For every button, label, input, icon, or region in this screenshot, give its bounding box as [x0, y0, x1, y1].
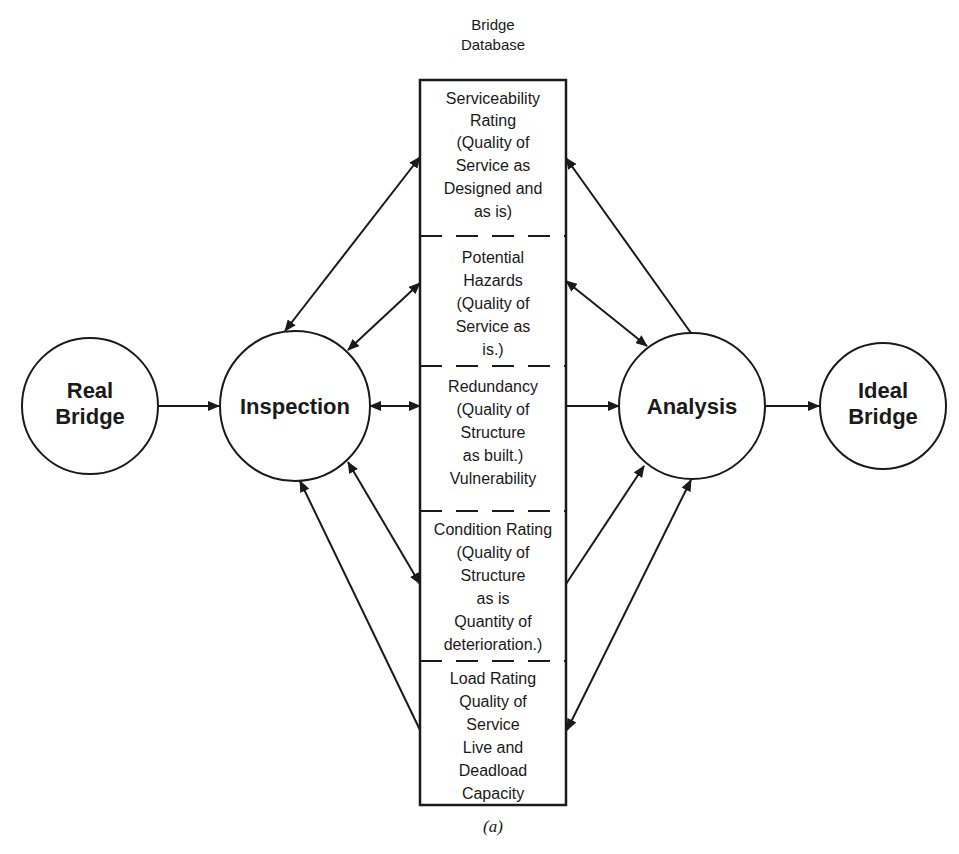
section-line: (Quality of: [457, 401, 530, 418]
edge-load-rating-analysis: [567, 480, 691, 730]
section-line: deterioration.): [444, 636, 543, 653]
section-line: (Quality of: [457, 295, 530, 312]
node-inspection: Inspection: [220, 331, 370, 481]
node-label: Analysis: [647, 394, 738, 419]
database-header-line: Database: [461, 36, 525, 53]
node-label: Bridge: [55, 404, 125, 429]
figure-caption: (a): [483, 817, 503, 836]
node-analysis: Analysis: [619, 333, 765, 479]
section-redundancy: Redundancy (Quality of Structure as buil…: [448, 378, 538, 487]
section-line: is.): [482, 341, 503, 358]
bridge-database-box: Serviceability Rating (Quality of Servic…: [420, 80, 566, 805]
section-line: as built.): [463, 447, 523, 464]
node-label: Real: [67, 378, 113, 403]
section-line: (Quality of: [457, 544, 530, 561]
section-line: Capacity: [462, 785, 524, 802]
section-line: Live and: [463, 739, 524, 756]
database-header-line: Bridge: [471, 16, 514, 33]
section-line: Deadload: [459, 762, 528, 779]
section-line: as is): [474, 203, 512, 220]
edge-inspection-potential-hazards: [348, 283, 420, 350]
section-line: Rating: [470, 112, 516, 129]
section-line: Redundancy: [448, 378, 538, 395]
node-label: Ideal: [858, 378, 908, 403]
node-label: Bridge: [848, 404, 918, 429]
section-line: Condition Rating: [434, 521, 552, 538]
bridge-management-diagram: Bridge Database Serviceability Rating (Q…: [0, 0, 959, 854]
edge-analysis-to-serviceability: [566, 158, 691, 333]
section-line: Serviceability: [446, 90, 540, 107]
section-line: Quality of: [459, 693, 527, 710]
section-line: as is: [477, 590, 510, 607]
section-line: (Quality of: [457, 134, 530, 151]
section-line: Service as: [456, 318, 531, 335]
node-real-bridge: Real Bridge: [22, 338, 158, 474]
section-line: Quantity of: [454, 613, 532, 630]
section-line: Load Rating: [450, 670, 536, 687]
node-ideal-bridge: Ideal Bridge: [820, 343, 946, 469]
edge-condition-rating-to-analysis: [566, 466, 644, 584]
node-label: Inspection: [240, 394, 350, 419]
section-line: Vulnerability: [450, 470, 537, 487]
section-line: Potential: [462, 249, 524, 266]
section-line: Service as: [456, 157, 531, 174]
edge-inspection-condition-rating: [348, 462, 420, 584]
edge-potential-hazards-analysis: [566, 281, 647, 346]
edge-load-rating-to-inspection: [300, 481, 420, 730]
database-header: Bridge Database: [461, 16, 525, 53]
section-line: Hazards: [463, 272, 523, 289]
section-line: Designed and: [444, 180, 543, 197]
section-line: Service: [466, 716, 519, 733]
section-line: Structure: [461, 567, 526, 584]
edge-inspection-serviceability: [285, 157, 420, 331]
section-line: Structure: [461, 424, 526, 441]
